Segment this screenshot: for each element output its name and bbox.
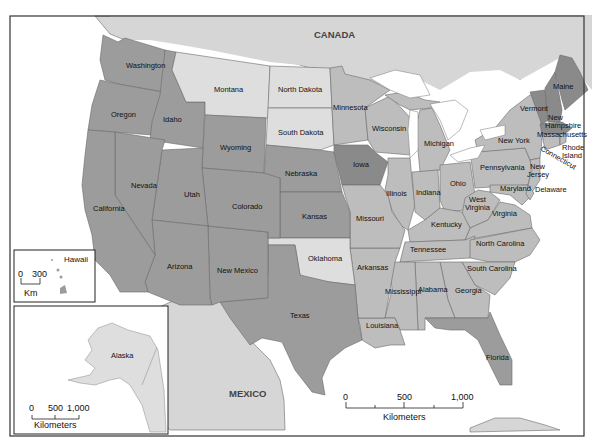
label-nebraska: Nebraska — [285, 169, 318, 178]
label-iowa: Iowa — [353, 160, 370, 169]
label-arizona: Arizona — [167, 262, 193, 271]
label-west-virginia-2: Virginia — [465, 203, 491, 212]
label-illinois: Illinois — [386, 189, 407, 198]
label-oregon: Oregon — [111, 110, 136, 119]
alaska-scale-unit: Kilometers — [34, 420, 77, 430]
lake-michigan — [408, 110, 418, 158]
alaska-scale-tick-1000: 1,000 — [67, 403, 90, 413]
label-arkansas: Arkansas — [357, 263, 389, 272]
hawaii-scale-tick-0: 0 — [18, 269, 23, 279]
label-colorado: Colorado — [232, 202, 262, 211]
label-oklahoma: Oklahoma — [308, 254, 343, 263]
country-label-mexico: MEXICO — [229, 388, 266, 399]
main-scale-tick-500: 500 — [397, 392, 412, 402]
label-kansas: Kansas — [302, 212, 327, 221]
label-idaho: Idaho — [163, 115, 182, 124]
label-maine: Maine — [553, 82, 573, 91]
label-louisiana: Louisiana — [366, 321, 399, 330]
label-nevada: Nevada — [131, 181, 158, 190]
alaska-inset: Alaska 0 500 1,000 Kilometers — [14, 306, 168, 434]
label-new-hampshire-2: Hampshire — [545, 121, 581, 130]
label-washington: Washington — [126, 61, 165, 70]
label-utah: Utah — [184, 190, 200, 199]
label-montana: Montana — [214, 85, 244, 94]
label-new-mexico: New Mexico — [217, 266, 258, 275]
label-michigan: Michigan — [424, 139, 454, 148]
label-south-carolina: South Carolina — [467, 264, 517, 273]
main-scale-tick-0: 0 — [343, 392, 348, 402]
main-scale-tick-1000: 1,000 — [451, 392, 474, 402]
label-minnesota: Minnesota — [333, 103, 368, 112]
label-delaware: Delaware — [535, 185, 567, 194]
label-mississippi: Mississippi — [385, 287, 422, 296]
label-vermont: Vermont — [520, 104, 549, 113]
label-tennessee: Tennessee — [410, 245, 446, 254]
label-maryland: Maryland — [500, 184, 531, 193]
label-missouri: Missouri — [356, 214, 384, 223]
alaska-scale-tick-0: 0 — [29, 403, 34, 413]
label-florida: Florida — [486, 353, 510, 362]
label-virginia: Virginia — [492, 209, 518, 218]
label-pennsylvania: Pennsylvania — [480, 163, 525, 172]
label-alaska: Alaska — [111, 351, 134, 360]
label-north-dakota: North Dakota — [278, 85, 323, 94]
label-texas: Texas — [290, 311, 310, 320]
label-ohio: Ohio — [450, 179, 466, 188]
label-hawaii: Hawaii — [64, 255, 88, 264]
hawaii-inset: Hawaii 0 300 Km — [14, 250, 95, 302]
hawaii-scale-unit: Km — [24, 288, 38, 298]
country-label-canada: CANADA — [314, 29, 355, 40]
label-indiana: Indiana — [416, 188, 441, 197]
label-new-york: New York — [498, 136, 530, 145]
label-california: California — [93, 204, 126, 213]
label-south-dakota: South Dakota — [278, 128, 324, 137]
label-kentucky: Kentucky — [431, 220, 462, 229]
label-massachusetts: Massachusetts — [537, 130, 587, 139]
label-new-jersey-2: Jersey — [527, 170, 549, 179]
label-north-carolina: North Carolina — [476, 239, 525, 248]
label-wyoming: Wyoming — [220, 143, 251, 152]
main-scale-unit: Kilometers — [383, 412, 426, 422]
label-alabama: Alabama — [418, 285, 448, 294]
us-states-map: CANADA MEXICO Washington Oregon Idaho Mo… — [0, 0, 592, 443]
label-georgia: Georgia — [455, 286, 483, 295]
label-wisconsin: Wisconsin — [372, 124, 406, 133]
hawaii-scale-tick-300: 300 — [32, 269, 47, 279]
alaska-scale-tick-500: 500 — [48, 403, 63, 413]
